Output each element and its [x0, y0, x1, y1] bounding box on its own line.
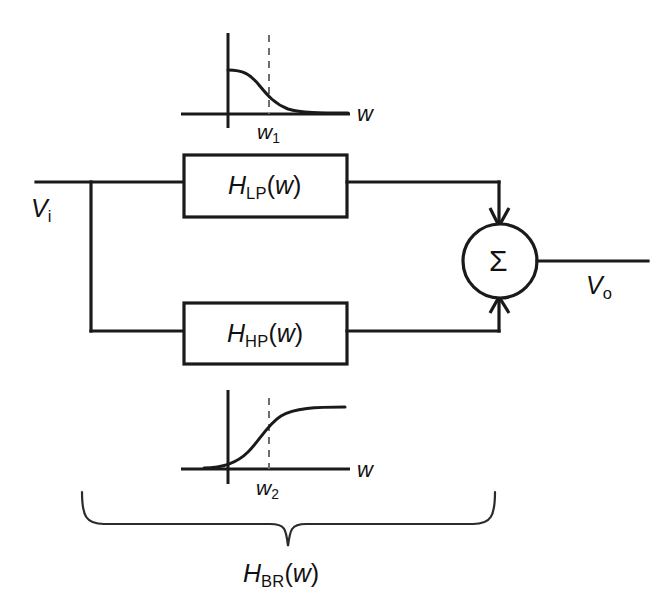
highpass-plot-xaxis-label: w — [357, 459, 373, 481]
lowpass-plot-xaxis-label: w — [357, 103, 373, 125]
highpass-response-plot — [181, 390, 350, 484]
input-port-label: Vi — [31, 196, 52, 224]
highpass-response-curve — [204, 407, 345, 468]
lowpass-response-plot — [181, 33, 350, 128]
lowpass-block-label: HLP(w) — [228, 173, 301, 201]
scope-brace — [82, 492, 495, 546]
scope-brace-label: HBR(w) — [243, 561, 319, 589]
input-wiring — [36, 182, 184, 331]
lowpass-response-curve — [228, 70, 348, 113]
highpass-cutoff-label: w2 — [256, 477, 279, 502]
highpass-block-label: HHP(w) — [227, 321, 303, 349]
output-port-label: Vo — [586, 273, 612, 301]
lowpass-cutoff-label: w1 — [257, 121, 280, 146]
summing-node-symbol: Σ — [489, 246, 508, 276]
block-diagram-figure: w w1 Vi HLP(w) HHP(w) Σ Vo w w2 HBR(w) — [0, 0, 672, 614]
highpass-to-summer-wiring — [347, 297, 509, 331]
lowpass-to-summer-wiring — [347, 182, 509, 226]
diagram-canvas — [0, 0, 672, 614]
